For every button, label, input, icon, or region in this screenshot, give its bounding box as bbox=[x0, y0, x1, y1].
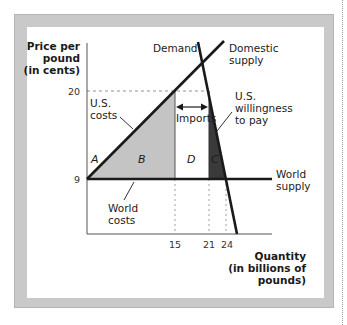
world-supply-label-line2: supply bbox=[276, 180, 311, 192]
y-axis-label-line3: (in cents) bbox=[24, 64, 80, 76]
imports-arrow-right-icon bbox=[201, 104, 208, 111]
world-supply-label-line1: World bbox=[276, 168, 306, 180]
world-costs-label-line1: World bbox=[108, 202, 138, 214]
x-tick-21: 21 bbox=[203, 239, 215, 250]
domestic-supply-label-line1: Domestic bbox=[229, 42, 279, 54]
x-axis-label-line1: Quantity bbox=[255, 250, 307, 262]
y-axis-label-line1: Price per bbox=[27, 40, 81, 52]
us-costs-label-line1: U.S. bbox=[90, 97, 111, 109]
domestic-supply-label-line2: supply bbox=[229, 54, 264, 66]
world-costs-label-line2: costs bbox=[108, 214, 135, 226]
region-a-label: A bbox=[90, 153, 99, 166]
wtp-label-line3: to pay bbox=[235, 114, 268, 126]
wtp-label-line2: willingness bbox=[235, 102, 293, 114]
x-tick-15: 15 bbox=[169, 239, 181, 250]
region-b-label: B bbox=[138, 153, 146, 166]
imports-arrow-left-icon bbox=[176, 104, 183, 111]
world-costs-pointer bbox=[124, 182, 134, 200]
x-axis-label-line2: (in billions of bbox=[228, 262, 306, 274]
us-costs-label-line2: costs bbox=[90, 109, 117, 121]
demand-line bbox=[198, 42, 237, 234]
wtp-pointer bbox=[217, 112, 232, 131]
x-axis-label-line3: pounds) bbox=[258, 274, 306, 286]
chart-svg: Price per pound (in cents) 20 9 15 21 24… bbox=[0, 0, 347, 325]
region-d-label: D bbox=[187, 153, 195, 166]
us-costs-pointer bbox=[120, 117, 133, 129]
region-c-label: C bbox=[211, 153, 219, 166]
imports-label: Imports bbox=[176, 112, 216, 124]
y-tick-20: 20 bbox=[68, 86, 80, 97]
demand-label: Demand bbox=[153, 42, 198, 54]
wtp-label-line1: U.S. bbox=[235, 90, 256, 102]
y-axis-label-line2: pound bbox=[43, 52, 80, 64]
y-tick-9: 9 bbox=[74, 174, 80, 185]
x-tick-24: 24 bbox=[221, 239, 233, 250]
